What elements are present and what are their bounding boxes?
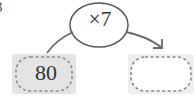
answer-input-box[interactable] xyxy=(130,56,192,92)
multiplication-diagram: 3 ×7 80 xyxy=(0,0,196,96)
output-connector-line xyxy=(126,32,161,47)
problem-number-fragment: 3 xyxy=(0,0,3,15)
input-connector-line xyxy=(47,32,73,53)
input-value: 80 xyxy=(16,62,76,84)
operation-label: ×7 xyxy=(78,9,122,30)
